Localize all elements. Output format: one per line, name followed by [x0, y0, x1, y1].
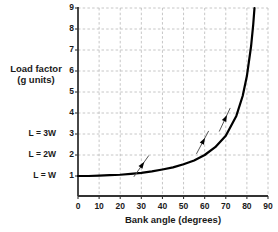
- x-tick-label: 10: [89, 201, 109, 211]
- load-factor-curve: [78, 8, 254, 176]
- x-tick-label: 0: [68, 201, 88, 211]
- x-tick-label: 70: [216, 201, 236, 211]
- y-tick-label: 1: [60, 170, 74, 180]
- x-tick-label: 60: [195, 201, 215, 211]
- y-tick-label: 9: [60, 2, 74, 12]
- curve-path: [78, 8, 254, 176]
- x-axis-title: Bank angle (degrees): [78, 214, 268, 225]
- x-tick-label: 30: [131, 201, 151, 211]
- load-factor-chart: Load factor (g units) Bank angle (degree…: [0, 0, 278, 232]
- arrow-head: [200, 138, 205, 145]
- x-tick-label: 20: [110, 201, 130, 211]
- x-tick-label: 90: [258, 201, 278, 211]
- y-tick-label: 2: [60, 149, 74, 159]
- arrow-head: [139, 162, 145, 169]
- load-reference-label: L = W: [12, 170, 56, 180]
- y-tick-label: 8: [60, 23, 74, 33]
- y-tick-label: 7: [60, 44, 74, 54]
- x-tick-label: 50: [174, 201, 194, 211]
- x-tick-label: 80: [237, 201, 257, 211]
- plot-canvas: [0, 0, 278, 232]
- tick-marks: [75, 8, 268, 199]
- load-reference-label: L = 3W: [12, 128, 56, 138]
- x-tick-label: 40: [152, 201, 172, 211]
- y-tick-label: 3: [60, 128, 74, 138]
- arrow-marker-3: [219, 108, 230, 132]
- load-reference-label: L = 2W: [12, 149, 56, 159]
- y-tick-label: 4: [60, 107, 74, 117]
- annotation-arrows: [134, 108, 230, 177]
- arrow-head: [222, 115, 227, 122]
- y-tick-label: 6: [60, 65, 74, 75]
- y-tick-label: 5: [60, 86, 74, 96]
- y-axis-title-line2: (g units): [2, 74, 70, 85]
